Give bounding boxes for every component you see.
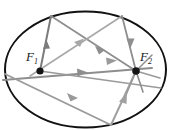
- figure-canvas: F 1 F 2: [0, 0, 173, 130]
- focus-dot-f2: [132, 67, 140, 75]
- arrowhead-up-f1-topleft: [43, 40, 50, 49]
- ray-topright-to-f1: [30, 16, 122, 76]
- arrowhead-upright-bottom-f2: [119, 93, 127, 104]
- ray-left-to-bottom: [5, 74, 111, 125]
- focus-label-f2-sub: 2: [148, 57, 152, 66]
- arrowhead-down-topright-f2: [127, 39, 135, 49]
- focus-dot-f1: [36, 67, 43, 74]
- arrowhead-downright-left-bottom: [67, 93, 78, 102]
- arrowhead-right-left-f2: [77, 69, 88, 77]
- ellipse-reflection-figure: F 1 F 2: [0, 0, 173, 130]
- focus-label-f1-sub: 1: [34, 57, 38, 66]
